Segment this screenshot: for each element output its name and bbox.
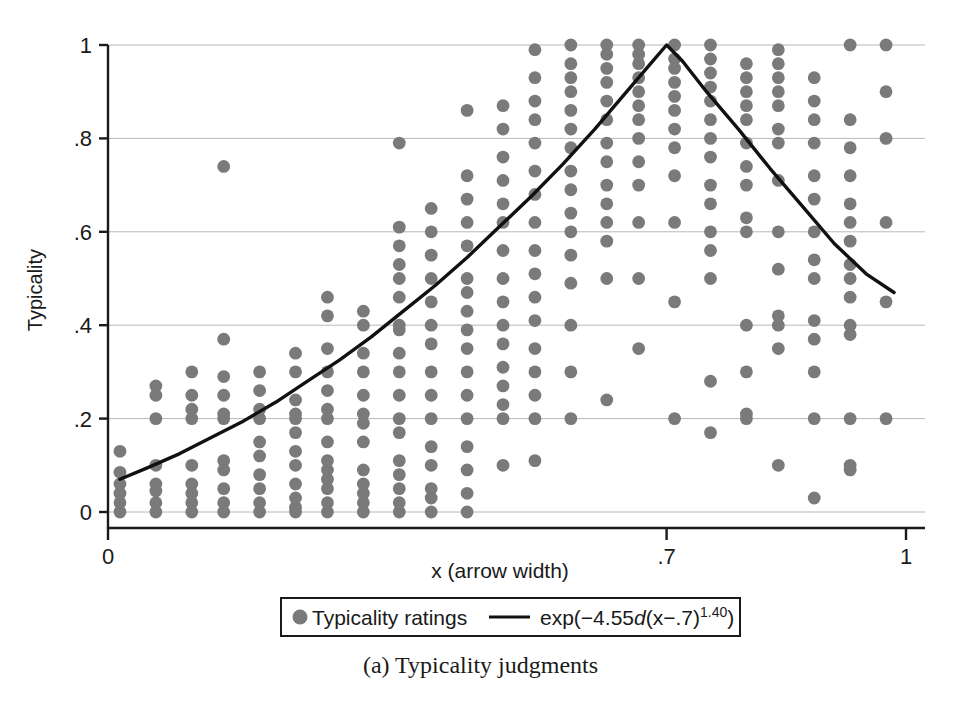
scatter-point — [461, 323, 474, 336]
scatter-point — [393, 389, 406, 402]
x-tick-label: 1 — [900, 544, 912, 569]
scatter-point — [497, 337, 510, 350]
scatter-point — [772, 225, 785, 238]
scatter-point — [632, 216, 645, 229]
scatter-point — [704, 151, 717, 164]
scatter-point — [600, 155, 613, 168]
y-axis-label: Typicality — [24, 249, 46, 331]
scatter-point — [529, 291, 542, 304]
scatter-point — [564, 104, 577, 117]
scatter-point — [393, 137, 406, 150]
scatter-point — [740, 99, 753, 112]
scatter-point — [253, 450, 266, 463]
scatter-point — [357, 347, 370, 360]
scatter-point — [844, 169, 857, 182]
legend-formula-suffix: ) — [727, 606, 734, 629]
scatter-point — [357, 366, 370, 379]
scatter-point — [114, 445, 127, 458]
scatter-point — [529, 366, 542, 379]
scatter-point — [357, 389, 370, 402]
scatter-point — [600, 216, 613, 229]
scatter-point — [425, 249, 438, 262]
scatter-point — [808, 366, 821, 379]
scatter-point — [425, 366, 438, 379]
scatter-point — [357, 464, 370, 477]
scatter-point — [740, 211, 753, 224]
scatter-point — [357, 319, 370, 332]
scatter-point — [529, 267, 542, 280]
scatter-point — [185, 478, 198, 491]
scatter-point — [808, 333, 821, 346]
scatter-point — [185, 403, 198, 416]
scatter-point — [668, 141, 681, 154]
scatter-point — [772, 263, 785, 276]
scatter-point — [393, 347, 406, 360]
scatter-point — [461, 366, 474, 379]
scatter-point — [808, 169, 821, 182]
scatter-point — [772, 309, 785, 322]
scatter-point — [497, 99, 510, 112]
scatter-point — [217, 496, 230, 509]
scatter-point — [564, 319, 577, 332]
scatter-point — [564, 39, 577, 52]
scatter-point — [497, 459, 510, 472]
scatter-point — [808, 412, 821, 425]
scatter-point — [740, 408, 753, 421]
scatter-point — [529, 342, 542, 355]
scatter-point — [600, 39, 613, 52]
scatter-point — [668, 123, 681, 136]
scatter-point — [600, 272, 613, 285]
scatter-point — [149, 478, 162, 491]
scatter-point — [772, 43, 785, 56]
scatter-point — [425, 319, 438, 332]
scatter-point — [461, 216, 474, 229]
scatter-point — [253, 366, 266, 379]
scatter-point — [185, 389, 198, 402]
x-axis-label: x (arrow width) — [431, 559, 569, 582]
scatter-point — [564, 165, 577, 178]
scatter-point — [808, 71, 821, 84]
scatter-point — [564, 71, 577, 84]
scatter-point — [461, 272, 474, 285]
scatter-point — [704, 225, 717, 238]
scatter-point — [668, 104, 681, 117]
scatter-point — [393, 496, 406, 509]
scatter-point — [564, 85, 577, 98]
scatter-point — [497, 412, 510, 425]
scatter-point — [844, 291, 857, 304]
scatter-point — [772, 85, 785, 98]
scatter-point — [289, 459, 302, 472]
scatter-point — [668, 412, 681, 425]
scatter-point — [461, 487, 474, 500]
scatter-point — [704, 113, 717, 126]
scatter-point — [357, 436, 370, 449]
scatter-point — [529, 71, 542, 84]
scatter-point — [740, 225, 753, 238]
scatter-point — [772, 342, 785, 355]
y-tick-label: .4 — [74, 313, 92, 338]
scatter-point — [600, 62, 613, 75]
legend-formula-middle: (x−.7) — [646, 606, 700, 629]
scatter-point — [321, 403, 334, 416]
scatter-point — [425, 225, 438, 238]
scatter-point — [425, 506, 438, 519]
scatter-point — [425, 412, 438, 425]
scatter-point — [393, 468, 406, 481]
scatter-point — [461, 464, 474, 477]
scatter-point — [564, 183, 577, 196]
scatter-point — [600, 76, 613, 89]
scatter-point — [632, 85, 645, 98]
scatter-point — [668, 90, 681, 103]
scatter-point — [289, 492, 302, 505]
scatter-point — [808, 95, 821, 108]
scatter-point — [772, 123, 785, 136]
scatter-point — [600, 394, 613, 407]
scatter-point — [740, 319, 753, 332]
scatter-point — [425, 440, 438, 453]
scatter-point — [393, 239, 406, 252]
scatter-point — [393, 258, 406, 271]
legend-formula-prefix: exp(−4.55 — [540, 606, 634, 629]
scatter-point — [497, 295, 510, 308]
scatter-point — [632, 132, 645, 145]
scatter-point — [844, 113, 857, 126]
